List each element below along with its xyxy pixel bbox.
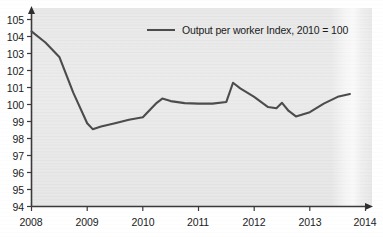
y-tick-label-105: 105 (0, 14, 24, 26)
x-tick-label-2010: 2010 (126, 216, 160, 228)
y-tick-label-101: 101 (0, 82, 24, 94)
y-tick-label-96: 96 (0, 167, 24, 179)
y-axis-arrow-icon (28, 6, 35, 14)
x-tick-label-2009: 2009 (70, 216, 104, 228)
y-tick-label-102: 102 (0, 65, 24, 77)
x-tick-label-2008: 2008 (14, 216, 48, 228)
x-tick-label-2012: 2012 (237, 216, 271, 228)
chart-legend: Output per worker Index, 2010 = 100 (147, 24, 348, 36)
y-tick-label-94: 94 (0, 201, 24, 213)
y-tick-label-97: 97 (0, 150, 24, 162)
x-tick-label-2014: 2014 (348, 216, 382, 228)
y-tick-label-99: 99 (0, 116, 24, 128)
x-tick-label-2011: 2011 (181, 216, 215, 228)
y-tick-label-103: 103 (0, 48, 24, 60)
series-line-output-per-worker (32, 31, 350, 129)
x-tick-label-2013: 2013 (293, 216, 327, 228)
legend-label: Output per worker Index, 2010 = 100 (182, 24, 348, 36)
x-axis-arrow-icon (365, 203, 373, 210)
y-tick-label-100: 100 (0, 99, 24, 111)
legend-line-swatch (147, 29, 175, 31)
y-tick-label-104: 104 (0, 31, 24, 43)
y-tick-label-95: 95 (0, 184, 24, 196)
y-tick-label-98: 98 (0, 133, 24, 145)
productivity-line-chart: 105 104 103 102 101 100 99 98 97 96 95 9… (0, 0, 383, 237)
